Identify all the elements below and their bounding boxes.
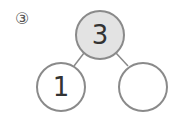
part-left-value: 1 [36,72,86,102]
connector-left [74,53,84,66]
number-bond-diagram [0,0,177,119]
connector-right [116,53,128,66]
part-right-circle[interactable] [119,63,167,111]
whole-value: 3 [75,20,125,50]
